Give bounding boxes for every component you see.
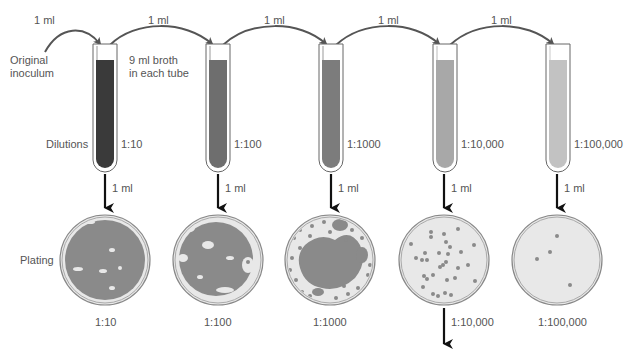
plate-2: [173, 215, 263, 305]
tube-4: [433, 44, 457, 172]
transfer-label-4: 1 ml: [491, 14, 512, 27]
transfer-label-3: 1 ml: [378, 14, 399, 27]
transfer-arrows: [45, 26, 553, 52]
plate-transfer-label-4: 1 ml: [451, 182, 472, 195]
broth-note-line1: 9 ml broth: [129, 54, 178, 67]
plate-transfer-label-5: 1 ml: [564, 182, 585, 195]
plate-3: [285, 215, 375, 305]
tube-dilution-2: 1:100: [234, 138, 262, 151]
dilutions-row-label: Dilutions: [46, 138, 88, 151]
plate-dilution-3: 1:1000: [313, 316, 347, 329]
plate-dilution-4: 1:10,000: [451, 316, 494, 329]
plate-transfer-label-2: 1 ml: [225, 182, 246, 195]
transfer-arrow-1: [110, 26, 212, 45]
diagram-canvas: [0, 0, 633, 360]
tube-dilution-5: 1:100,000: [574, 138, 623, 151]
transfer-label-1: 1 ml: [148, 14, 169, 27]
inoculum-transfer-arrow: [45, 31, 100, 52]
tube-3: [319, 44, 343, 172]
original-inoculum-label-line2: inoculum: [10, 67, 54, 80]
plate-dilution-1: 1:10: [95, 316, 116, 329]
transfer-label-0: 1 ml: [34, 14, 55, 27]
tube-dilution-3: 1:1000: [347, 138, 381, 151]
plate-4: [399, 215, 489, 305]
plate-1: [60, 215, 150, 305]
transfer-arrow-4: [450, 26, 553, 45]
plate-5: [512, 215, 602, 305]
tube-1: [93, 44, 117, 172]
transfer-label-2: 1 ml: [264, 14, 285, 27]
transfer-arrow-2: [223, 26, 326, 45]
broth-note-line2: in each tube: [129, 67, 189, 80]
tube-5: [546, 44, 570, 172]
plating-row-label: Plating: [20, 254, 54, 267]
tube-dilution-4: 1:10,000: [461, 138, 504, 151]
plate-dilution-5: 1:100,000: [538, 316, 587, 329]
original-inoculum-label-line1: Original: [10, 54, 48, 67]
plate-transfer-label-3: 1 ml: [338, 182, 359, 195]
plate-transfer-label-1: 1 ml: [112, 182, 133, 195]
transfer-arrow-3: [336, 26, 439, 45]
plate-dilution-2: 1:100: [204, 316, 232, 329]
tube-dilution-1: 1:10: [121, 138, 142, 151]
tube-2: [206, 44, 230, 172]
